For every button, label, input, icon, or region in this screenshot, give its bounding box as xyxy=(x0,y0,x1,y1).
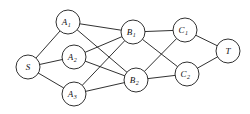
edge-a3-b2 xyxy=(86,83,125,92)
edge-a1-b1 xyxy=(80,24,121,30)
edge-c1-t xyxy=(196,35,217,45)
node-label-s: S xyxy=(26,62,31,72)
edge-s-a1 xyxy=(36,31,60,58)
edge-a3-b1 xyxy=(82,41,124,86)
node-a2[interactable]: A2 xyxy=(62,45,86,69)
edge-b1-c1 xyxy=(145,30,173,31)
edge-c2-t xyxy=(197,57,217,68)
edge-b2-c1 xyxy=(144,39,176,72)
node-b1[interactable]: B1 xyxy=(121,20,145,44)
node-a3[interactable]: A3 xyxy=(62,82,86,106)
node-subscript-b2: 2 xyxy=(136,80,139,86)
edge-b2-c2 xyxy=(148,75,175,78)
node-subscript-a3: 3 xyxy=(73,94,77,100)
edge-s-a3 xyxy=(38,73,63,88)
node-s[interactable]: S xyxy=(16,55,40,79)
node-subscript-c2: 2 xyxy=(187,74,190,80)
node-subscript-a2: 2 xyxy=(74,57,77,63)
edge-a2-b2 xyxy=(85,61,125,76)
node-subscript-a1: 1 xyxy=(68,22,71,28)
node-subscript-c1: 1 xyxy=(185,30,188,36)
node-subscript-b1: 1 xyxy=(133,32,136,38)
node-b2[interactable]: B2 xyxy=(124,68,148,92)
network-graph: SA1A2A3B1B2C1C2T xyxy=(0,0,250,114)
node-layer: SA1A2A3B1B2C1C2T xyxy=(16,10,240,106)
diagram-canvas: SA1A2A3B1B2C1C2T xyxy=(0,0,250,114)
node-c1[interactable]: C1 xyxy=(173,18,197,42)
edge-s-a2 xyxy=(40,60,63,65)
node-t[interactable]: T xyxy=(216,39,240,63)
node-c2[interactable]: C2 xyxy=(175,62,199,86)
node-a1[interactable]: A1 xyxy=(56,10,80,34)
